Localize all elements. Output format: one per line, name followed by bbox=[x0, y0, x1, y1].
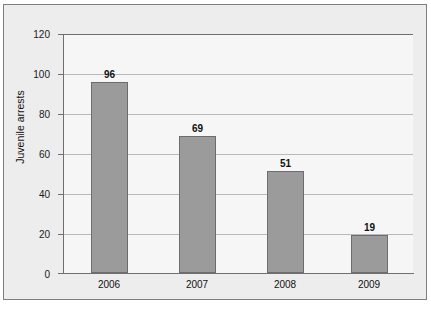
y-axis-line bbox=[63, 34, 64, 274]
y-tick-label: 0 bbox=[44, 269, 50, 280]
bar-value-label: 19 bbox=[364, 222, 375, 233]
gridline-100 bbox=[63, 74, 413, 75]
bar[interactable]: 51 bbox=[267, 171, 304, 273]
y-tick-label: 60 bbox=[39, 149, 50, 160]
gridline-120 bbox=[63, 34, 413, 35]
x-tick-label: 2009 bbox=[358, 279, 380, 290]
plot-area: 96 69 51 19 bbox=[63, 34, 413, 273]
bar[interactable]: 69 bbox=[179, 136, 216, 273]
y-tick-label: 20 bbox=[39, 229, 50, 240]
x-tick-label: 2007 bbox=[186, 279, 208, 290]
y-axis-tick-labels: 0 20 40 60 80 100 120 bbox=[4, 34, 50, 274]
y-tick-label: 40 bbox=[39, 189, 50, 200]
bar-value-label: 51 bbox=[280, 158, 291, 169]
chart-figure: Juvenile arrests 0 20 40 60 80 100 120 9… bbox=[3, 4, 427, 300]
x-tick-label: 2008 bbox=[274, 279, 296, 290]
bar-value-label: 69 bbox=[192, 123, 203, 134]
bar-value-label: 96 bbox=[104, 69, 115, 80]
bar[interactable]: 19 bbox=[351, 235, 388, 273]
y-tick-label: 100 bbox=[33, 69, 50, 80]
y-tick-label: 80 bbox=[39, 109, 50, 120]
y-tick-label: 120 bbox=[33, 29, 50, 40]
x-axis-line bbox=[63, 273, 414, 274]
x-tick-label: 2006 bbox=[98, 279, 120, 290]
bar[interactable]: 96 bbox=[91, 82, 128, 273]
